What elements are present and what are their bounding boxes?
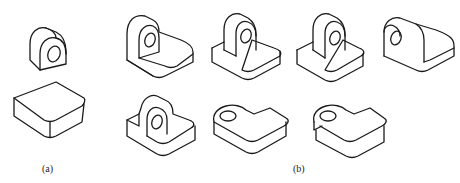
part-b2 xyxy=(208,10,284,82)
caption-a: (a) xyxy=(42,163,53,174)
base-plate-drawing xyxy=(12,80,86,138)
part-a2-base-plate xyxy=(12,80,86,138)
part-b7 xyxy=(310,100,390,160)
hole xyxy=(46,44,63,63)
caption-b: (b) xyxy=(293,163,305,174)
part-b1 xyxy=(125,10,197,82)
lug-drawing xyxy=(26,24,70,72)
part-b4 xyxy=(380,12,458,82)
part-b6 xyxy=(210,100,290,156)
part-b3 xyxy=(295,10,367,82)
part-b5 xyxy=(123,92,199,156)
part-a1-lug xyxy=(26,24,70,72)
